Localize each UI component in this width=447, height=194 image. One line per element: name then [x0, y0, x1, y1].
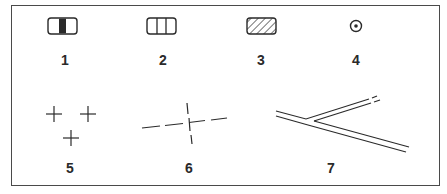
- symbol-5-icon: [46, 106, 96, 146]
- legend-label-4: 4: [346, 52, 366, 68]
- legend-label-2: 2: [153, 52, 173, 68]
- legend-label-1: 1: [55, 52, 75, 68]
- symbol-7-icon: [276, 96, 409, 152]
- symbol-6-icon: [142, 103, 227, 144]
- symbol-1-icon: [48, 18, 77, 34]
- symbol-3-icon: [247, 18, 276, 34]
- symbol-4-icon: [351, 21, 362, 32]
- legend-label-6: 6: [179, 160, 199, 176]
- legend-label-5: 5: [60, 160, 80, 176]
- symbol-2-icon: [147, 18, 176, 34]
- legend-label-7: 7: [321, 160, 341, 176]
- legend-label-3: 3: [251, 52, 271, 68]
